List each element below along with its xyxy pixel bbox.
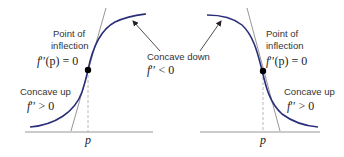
concave-down-arrow [200,21,221,51]
concave-up-label: Concave up [284,86,335,97]
concave-down-arrow [133,21,160,51]
axis-label-p: p [84,133,91,147]
eq-rest: > 0 [296,99,315,113]
inflection-equation: f′′(p) = 0 [266,54,307,68]
inflection-equation: f′′(p) = 0 [37,54,78,68]
inflection-label-line1: Point of [266,28,299,39]
concave-down-equation: f′′ < 0 [147,63,174,77]
left-panel: Point of inflection f′′(p) = 0 Concave u… [20,8,210,147]
eq-rest: (p) = 0 [275,54,308,68]
axis-label-p: p [259,133,266,147]
inflection-label-line1: Point of [53,28,86,39]
concave-up-equation: f′′ > 0 [287,99,314,113]
concave-down-label: Concave down [147,51,210,62]
inflection-label-line2: inflection [51,40,89,51]
eq-rest: < 0 [156,63,175,77]
inflection-label-line2: inflection [266,40,304,51]
inflection-point [260,68,266,74]
inflection-diagram: Point of inflection f′′(p) = 0 Concave u… [0,0,344,157]
right-panel: Point of inflection f′′(p) = 0 Concave u… [200,8,335,147]
eq-rest: (p) = 0 [46,54,79,68]
concave-up-equation: f′′ > 0 [27,99,54,113]
concave-up-label: Concave up [20,86,71,97]
eq-rest: > 0 [36,99,55,113]
inflection-point [85,67,91,73]
